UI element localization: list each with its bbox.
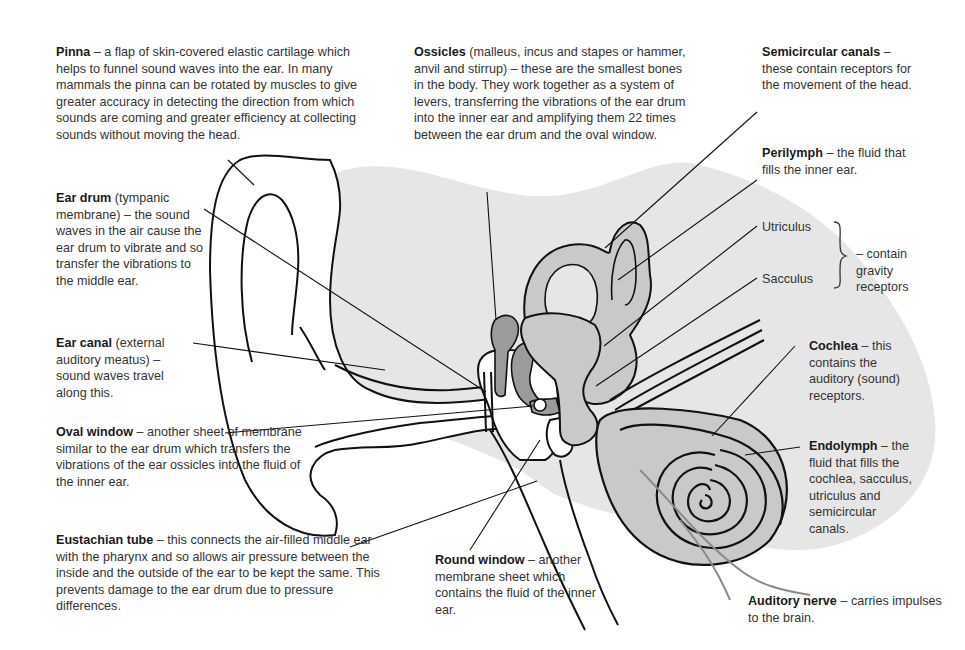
label-semicircular-canals-term: Semicircular canals [762,45,880,59]
label-endolymph-text: – the fluid that fills the cochlea, sacc… [809,439,912,536]
label-oval-window: Oval window – another sheet of membrane … [56,424,306,490]
label-cochlea-term: Cochlea [809,339,858,353]
label-auditory-nerve-term: Auditory nerve [748,594,837,608]
label-utriculus: Utriculus [762,219,811,236]
label-pinna: Pinna – a flap of skin-covered elastic c… [56,44,381,144]
label-gravity-receptors: – contain gravity receptors [856,246,926,296]
label-round-window-term: Round window [435,553,525,567]
label-ear-canal: Ear canal (external auditory meatus) – s… [56,335,191,401]
label-ear-canal-term: Ear canal [56,336,112,350]
label-round-window: Round window – another membrane sheet wh… [435,552,605,618]
oval-window-ring [534,399,546,411]
label-semicircular-canals: Semicircular canals – these contain rece… [762,44,922,94]
label-perilymph: Perilymph – the fluid that fills the inn… [762,145,922,178]
label-perilymph-term: Perilymph [762,146,823,160]
label-cochlea: Cochlea – this contains the auditory (so… [809,338,919,404]
label-pinna-term: Pinna [56,45,90,59]
label-pinna-text: – a flap of skin-covered elastic cartila… [56,45,357,142]
label-sacculus: Sacculus [762,271,813,288]
label-ossicles: Ossicles (malleus, incus and stapes or h… [414,44,694,144]
label-endolymph-term: Endolymph [809,439,878,453]
label-ossicles-text: (malleus, incus and stapes or hammer, an… [414,45,686,142]
cochlea-spiral [596,408,787,564]
label-eustachian-tube-term: Eustachian tube [56,533,153,547]
label-ear-drum-text: (tympanic membrane) – the sound waves in… [56,191,203,288]
label-ear-drum: Ear drum (tympanic membrane) – the sound… [56,190,204,290]
label-ossicles-term: Ossicles [414,45,466,59]
label-oval-window-term: Oval window [56,425,133,439]
label-ear-drum-term: Ear drum [56,191,111,205]
label-auditory-nerve: Auditory nerve – carries impulses to the… [748,593,948,626]
label-eustachian-tube: Eustachian tube – this connects the air-… [56,532,396,615]
label-endolymph: Endolymph – the fluid that fills the coc… [809,438,919,538]
